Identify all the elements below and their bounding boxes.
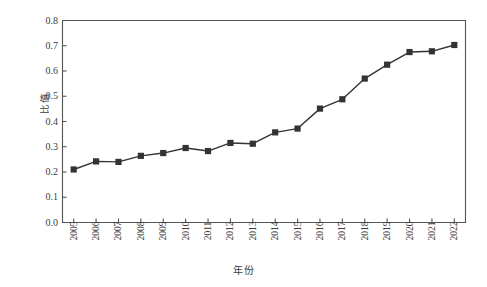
x-tick-label: 2007 bbox=[113, 211, 123, 251]
x-axis-title: 年份 bbox=[0, 262, 487, 277]
x-tick-label: 2010 bbox=[181, 211, 191, 251]
x-tick-label: 2011 bbox=[203, 211, 213, 251]
x-tick-label: 2017 bbox=[337, 211, 347, 251]
x-tick-label: 2006 bbox=[91, 211, 101, 251]
x-tick-label: 2022 bbox=[449, 211, 459, 251]
x-tick-label: 2018 bbox=[360, 211, 370, 251]
x-tick-label: 2012 bbox=[225, 211, 235, 251]
x-tick-label: 2009 bbox=[158, 211, 168, 251]
x-tick-label: 2013 bbox=[248, 211, 258, 251]
x-tick-label: 2014 bbox=[270, 211, 280, 251]
x-tick-label: 2019 bbox=[382, 211, 392, 251]
chart-figure: 比值 0.00.10.20.30.40.50.60.70.8 200520062… bbox=[0, 0, 487, 287]
x-tick-label: 2008 bbox=[136, 211, 146, 251]
x-tick-label: 2016 bbox=[315, 211, 325, 251]
x-tick-label: 2020 bbox=[405, 211, 415, 251]
x-tick-label: 2005 bbox=[69, 211, 79, 251]
x-axis-tick-labels: 2005200620072008200920102011201220132014… bbox=[0, 0, 487, 287]
x-tick-label: 2021 bbox=[427, 211, 437, 251]
x-tick-label: 2015 bbox=[293, 211, 303, 251]
